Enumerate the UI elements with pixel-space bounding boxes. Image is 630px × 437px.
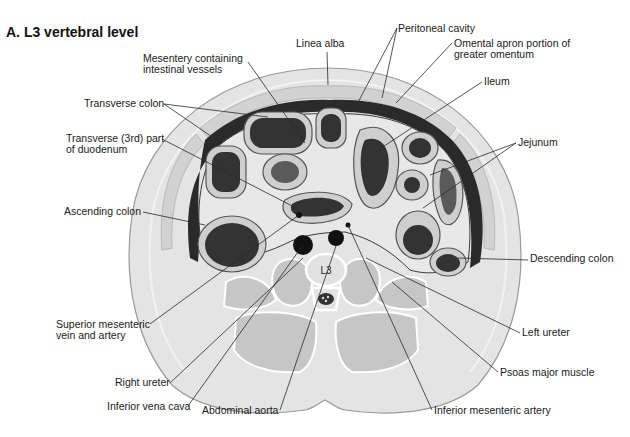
small-intestine-loop [263, 154, 307, 190]
label-omental-apron: Omental apron portion ofgreater omentum [454, 37, 570, 60]
label-mesentery: Mesentery containingintestinal vessels [143, 52, 243, 75]
label-right-ureter: Right ureter [115, 376, 170, 388]
label-ivc: Inferior vena cava [107, 400, 191, 412]
label-ascending-colon: Ascending colon [64, 205, 141, 217]
label-ima: Inferior mesenteric artery [434, 404, 551, 416]
label-psoas: Psoas major muscle [500, 366, 595, 378]
transverse-colon [244, 108, 346, 154]
label-jejunum: Jejunum [518, 136, 558, 148]
label-ileum: Ileum [484, 75, 510, 87]
label-left-ureter: Left ureter [522, 326, 570, 338]
l3-cross-section-figure: A. L3 vertebral level [0, 0, 630, 437]
label-linea-alba: Linea alba [296, 37, 345, 49]
label-descending-colon: Descending colon [530, 252, 614, 264]
descending-colon [430, 248, 466, 276]
label-duodenum: Transverse (3rd) partof duodenum [66, 132, 164, 155]
label-transverse-colon: Transverse colon [84, 97, 164, 109]
figure-title: A. L3 vertebral level [6, 24, 138, 40]
label-peritoneal-cavity: Peritoneal cavity [398, 22, 476, 34]
spinal-canal [318, 293, 334, 305]
label-aorta: Abdominal aorta [202, 404, 279, 416]
abdomen-cross-section: L3 [129, 68, 521, 413]
label-smv-sma: Superior mesentericvein and artery [56, 318, 150, 341]
abdominal-aorta [328, 230, 344, 246]
